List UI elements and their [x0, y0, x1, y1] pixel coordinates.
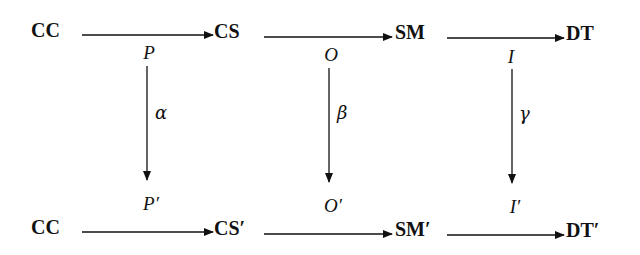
node-cs-bottom: CS′	[214, 218, 245, 238]
node-sm-bottom: SM′	[395, 219, 431, 239]
label-beta: β	[337, 104, 347, 122]
node-cc-bottom: CC	[31, 217, 60, 237]
node-sm-top: SM	[395, 22, 425, 42]
node-dt-bottom: DT′	[566, 220, 599, 240]
label-alpha: α	[155, 104, 167, 122]
node-cc-top: CC	[31, 20, 60, 40]
label-gamma: γ	[519, 105, 530, 123]
label-i-prime: I′	[510, 197, 520, 216]
node-dt-top: DT	[566, 23, 594, 43]
node-cs-top: CS	[214, 21, 240, 41]
label-i: I	[508, 47, 514, 66]
label-o: O	[324, 45, 338, 64]
label-p: P	[143, 43, 155, 62]
label-o-prime: O′	[324, 196, 342, 215]
arrows-layer	[0, 0, 640, 255]
label-p-prime: P′	[143, 194, 159, 213]
